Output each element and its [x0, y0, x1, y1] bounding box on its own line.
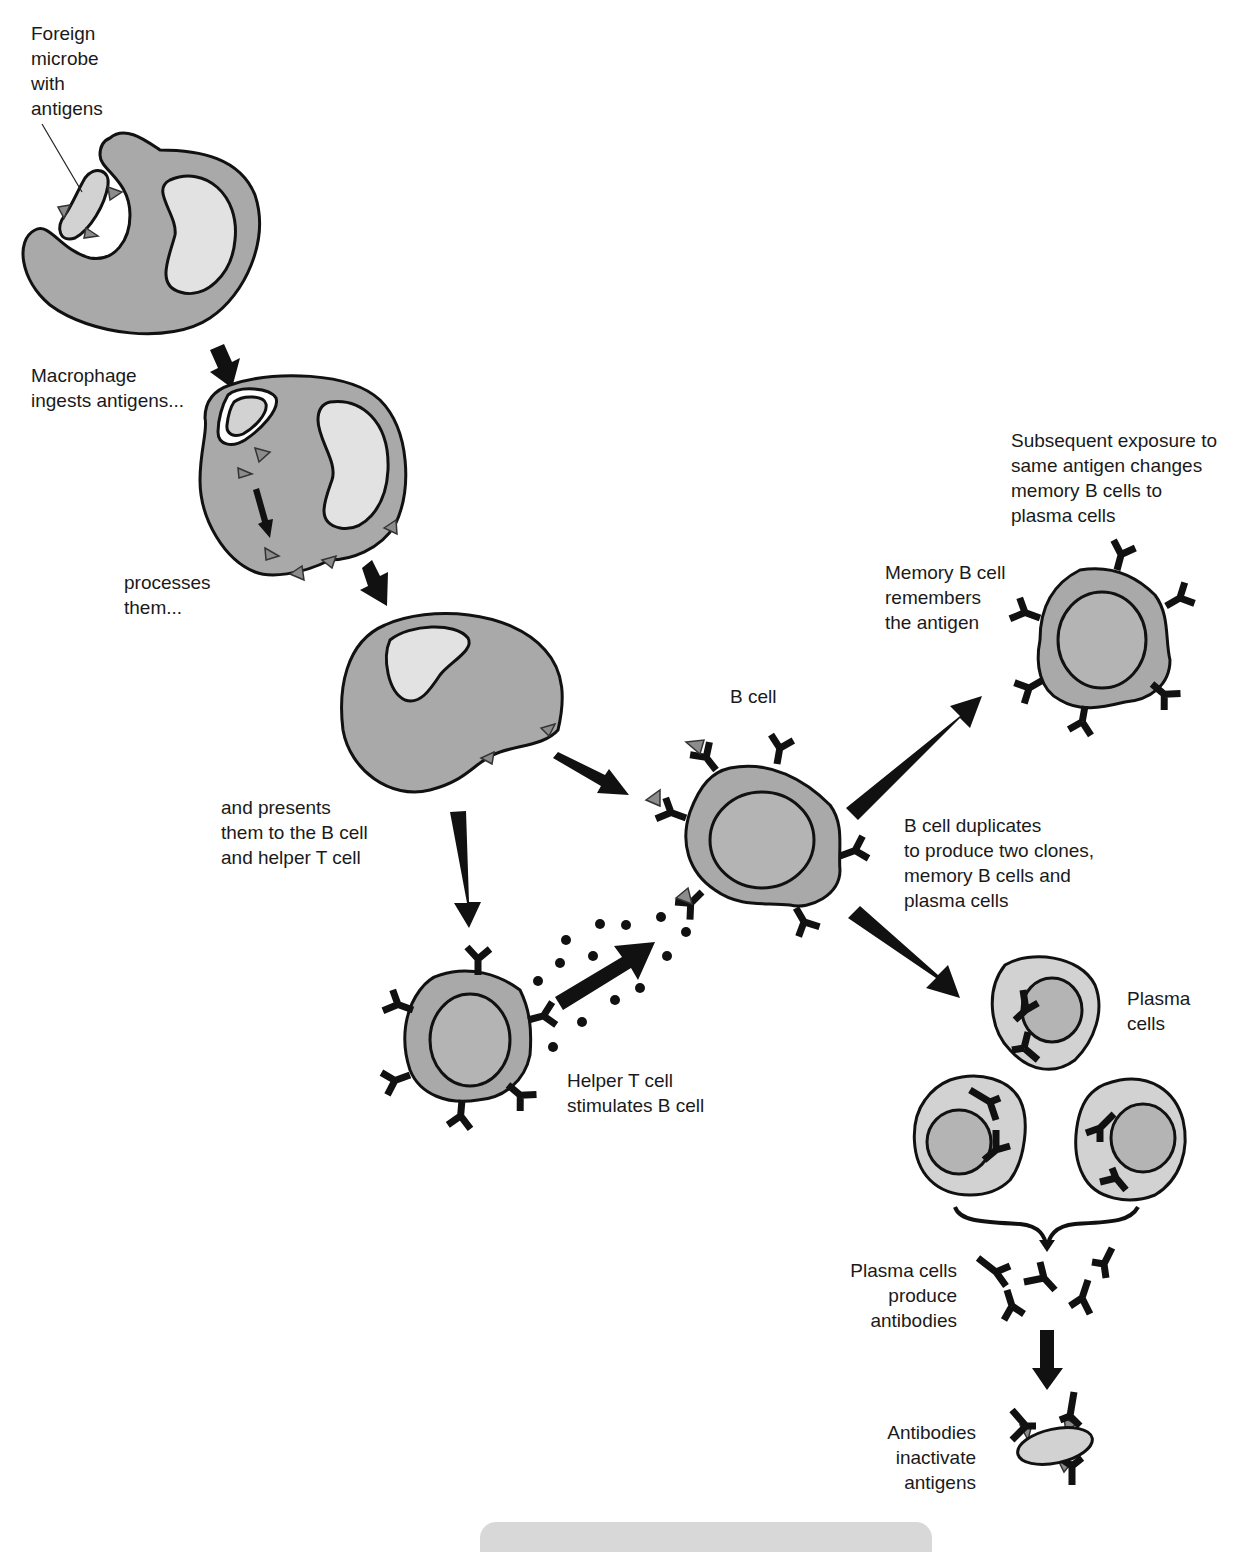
arrow-to-helper-t	[450, 811, 481, 928]
label-subsequent-exposure: Subsequent exposure to same antigen chan…	[1011, 428, 1217, 528]
label-processes: processes them...	[124, 570, 211, 620]
macrophage-engulfing	[23, 124, 259, 334]
plasma-cell-top	[992, 957, 1099, 1069]
memory-b-cell	[1010, 540, 1196, 735]
caption-bar	[480, 1522, 932, 1552]
antibody-antigen-complex	[1012, 1392, 1096, 1485]
label-memory-b: Memory B cell remembers the antigen	[885, 560, 1005, 635]
macrophage-presenting	[342, 614, 563, 792]
arrow-to-memory-b	[846, 696, 982, 820]
arrow-to-plasma	[848, 906, 960, 998]
helper-t-cell	[380, 947, 559, 1129]
label-produce-antibodies: Plasma cells produce antibodies	[820, 1258, 957, 1333]
plasma-cell-left	[914, 1076, 1025, 1195]
label-inactivate-antigens: Antibodies inactivate antigens	[860, 1420, 976, 1495]
plasma-cell-right	[1076, 1079, 1185, 1200]
arrow-to-present	[360, 560, 388, 606]
label-helper-t: Helper T cell stimulates B cell	[567, 1068, 704, 1118]
foreign-microbe	[58, 171, 122, 239]
macrophage-processing	[200, 376, 406, 580]
arrow-helper-t-to-b-cell	[555, 942, 655, 1010]
label-duplicates: B cell duplicates to produce two clones,…	[904, 813, 1094, 913]
arrow-to-b-cell	[553, 752, 629, 795]
label-presents: and presents them to the B cell and help…	[221, 795, 368, 870]
label-foreign-microbe: Foreign microbe with antigens	[31, 21, 103, 121]
label-macrophage-ingests: Macrophage ingests antigens...	[31, 363, 184, 413]
label-plasma-cells: Plasma cells	[1127, 986, 1190, 1036]
cytokine-dots	[533, 912, 691, 1052]
arrow-to-inactivate	[1032, 1330, 1063, 1390]
label-b-cell: B cell	[730, 684, 776, 709]
free-antibodies	[978, 1248, 1112, 1320]
arrow-to-ingest	[210, 344, 240, 388]
microbe-pointer-line	[42, 124, 82, 192]
b-cell	[646, 735, 870, 939]
